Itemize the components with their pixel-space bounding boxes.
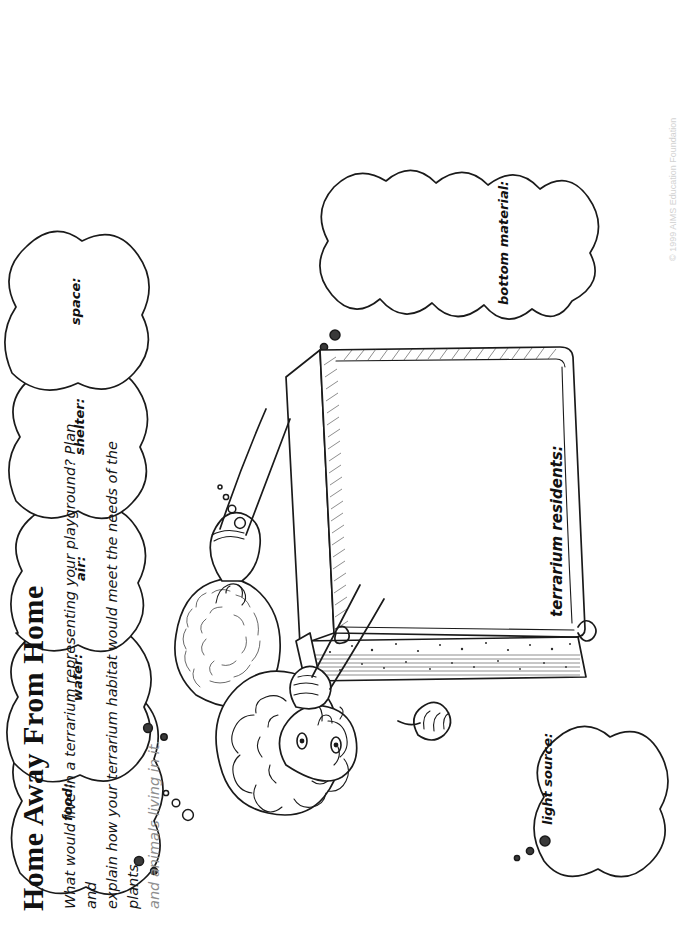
instructions-line-3: and animals living in it.: [144, 409, 165, 909]
page-title: Home Away From Home: [16, 585, 50, 911]
bubble-label-water: water:: [70, 654, 85, 701]
bubble-label-food: food:: [60, 783, 75, 821]
worksheet-sheet: Home Away From Home What would live in a…: [0, 0, 693, 933]
bubble-label-air: air:: [73, 556, 88, 581]
copyright-footer: © 1999 AIMS Education Foundation: [668, 118, 678, 261]
thought-bubble-bottom-material-shape: [320, 170, 599, 319]
terrarium-residents-label: terrarium residents:: [548, 445, 566, 617]
instructions-line-2: explain how your terrarium habitat would…: [102, 409, 144, 909]
bubble-label-bottom-material: bottom material:: [496, 181, 511, 305]
worksheet-page: Home Away From Home What would live in a…: [0, 0, 693, 933]
bubble-label-shelter: shelter:: [72, 398, 87, 455]
bubble-label-light-source: light source:: [540, 733, 555, 825]
bubble-label-space: space:: [68, 277, 83, 325]
